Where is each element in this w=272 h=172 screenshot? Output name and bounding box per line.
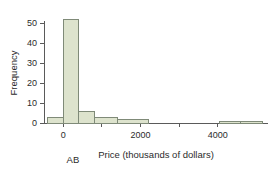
- y-axis-title: Frequency: [8, 50, 19, 95]
- histogram-chart: 01020304050 Frequency 020004000 Price (t…: [0, 0, 272, 172]
- histogram-bar: [79, 111, 94, 123]
- ab-annotation-label: AB: [67, 154, 80, 165]
- histogram-bar: [94, 117, 117, 123]
- histogram-bar: [48, 117, 63, 123]
- x-axis-title: Price (thousands of dollars): [98, 149, 214, 160]
- y-tick-label: 0: [32, 118, 37, 128]
- y-axis-group: 01020304050 Frequency: [8, 18, 44, 128]
- chart-canvas: 01020304050 Frequency 020004000 Price (t…: [0, 0, 272, 172]
- x-tick-label: 4000: [208, 130, 228, 140]
- y-tick-label: 30: [27, 58, 37, 68]
- histogram-bar: [63, 19, 78, 123]
- y-tick-group: 01020304050: [27, 18, 44, 128]
- annotation-group: AB: [67, 154, 80, 165]
- histogram-bar: [117, 119, 148, 123]
- histogram-bar: [241, 121, 262, 123]
- bar-group: [48, 19, 262, 123]
- x-tick-group: 020004000: [61, 123, 228, 140]
- y-tick-label: 50: [27, 18, 37, 28]
- y-tick-label: 20: [27, 78, 37, 88]
- x-tick-label: 2000: [131, 130, 151, 140]
- y-tick-label: 40: [27, 38, 37, 48]
- x-tick-label: 0: [61, 130, 66, 140]
- y-tick-label: 10: [27, 98, 37, 108]
- histogram-bar: [220, 121, 241, 123]
